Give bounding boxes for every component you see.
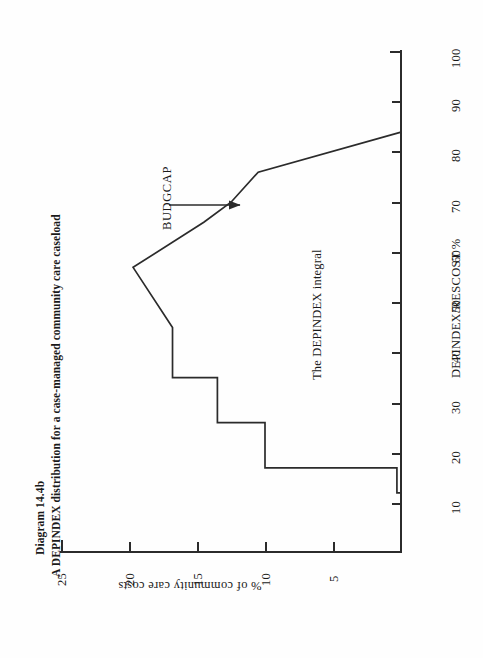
depindex-integral-annotation: The DEPINDEX integral (310, 249, 325, 380)
budgcap-arrow-icon (0, 0, 483, 658)
figure-page: Diagram 14.4b A DEPINDEX distribution fo… (0, 0, 483, 658)
budgcap-annotation: BUDGCAP (160, 166, 175, 230)
